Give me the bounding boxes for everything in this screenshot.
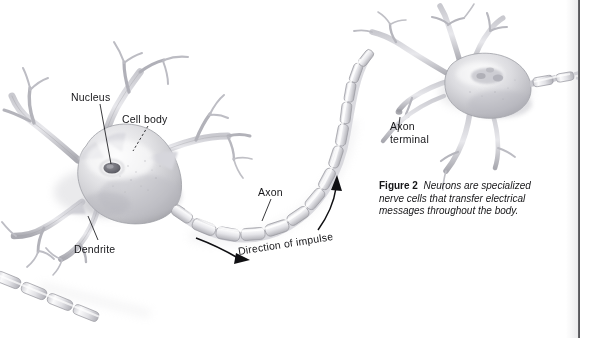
figure-number: Figure 2 <box>379 180 418 191</box>
leader-axon <box>262 199 271 221</box>
label-dendrite: Dendrite <box>74 243 115 255</box>
label-axon-terminal: Axon terminal <box>390 120 450 145</box>
label-axon-terminal-line1: Axon <box>390 120 415 132</box>
label-axon-terminal-line2: terminal <box>390 133 429 145</box>
label-nucleus: Nucleus <box>71 91 110 103</box>
figure-page: Nucleus Cell body Dendrite Axon Axon ter… <box>0 0 595 338</box>
neuron-illustration <box>0 0 595 338</box>
label-axon: Axon <box>258 186 283 198</box>
page-edge-shadow <box>566 0 578 338</box>
axon-terminal-bouton <box>396 109 403 115</box>
myelinated-axon <box>170 48 375 242</box>
page-outside-margin <box>580 0 595 338</box>
figure-caption: Figure 2 Neurons are specialized nerve c… <box>379 180 531 218</box>
neuron-right <box>354 4 592 190</box>
cell-body-left <box>64 124 182 224</box>
label-cell-body: Cell body <box>122 113 168 125</box>
